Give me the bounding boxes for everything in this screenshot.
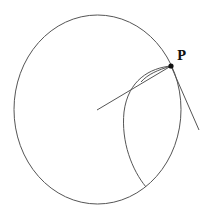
point-p-label: P — [177, 49, 186, 63]
tangent-line — [171, 66, 199, 130]
radial-line — [97, 66, 171, 110]
inner-arc — [124, 66, 171, 187]
point-p-marker — [168, 63, 173, 68]
geometry-diagram: P — [0, 0, 207, 216]
